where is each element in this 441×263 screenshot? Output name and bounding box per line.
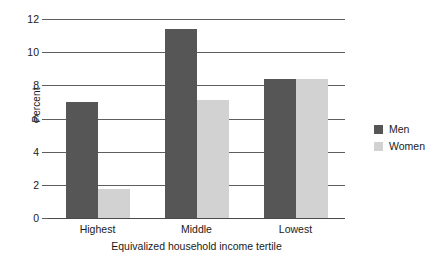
bar-men-highest [66, 102, 98, 218]
bar-women-lowest [296, 79, 328, 218]
x-axis-title: Equivalized household income tertile [48, 240, 345, 252]
bar-men-lowest [264, 79, 296, 218]
y-axis-tick-label: 10 [27, 47, 39, 58]
y-axis-tick-mark [42, 152, 48, 153]
y-axis-tick-mark [42, 218, 48, 219]
legend-swatch-icon [374, 125, 383, 134]
x-axis-line [48, 218, 345, 219]
bar-women-highest [98, 189, 130, 218]
legend-swatch-icon [374, 142, 383, 151]
gridline [48, 52, 345, 53]
y-axis-tick-label: 6 [33, 113, 39, 124]
bar-men-middle [165, 29, 197, 218]
x-axis-category-label: Middle [181, 223, 212, 235]
x-axis-category-label: Highest [80, 223, 116, 235]
y-axis-tick-mark [42, 85, 48, 86]
y-axis-tick-label: 4 [33, 146, 39, 157]
legend-item-women[interactable]: Women [374, 138, 425, 155]
legend-label: Women [389, 141, 425, 152]
bar-women-middle [197, 100, 229, 218]
y-axis-tick-mark [42, 185, 48, 186]
plot-area: 024681012 [48, 19, 345, 218]
y-axis-tick-label: 12 [27, 14, 39, 25]
legend-item-men[interactable]: Men [374, 121, 425, 138]
y-axis-tick-label: 8 [33, 80, 39, 91]
x-axis-category-label: Lowest [279, 223, 312, 235]
y-axis-tick-mark [42, 52, 48, 53]
chart-legend: MenWomen [374, 121, 425, 155]
y-axis-tick-mark [42, 119, 48, 120]
y-axis-tick-label: 2 [33, 180, 39, 191]
y-axis-tick-label: 0 [33, 213, 39, 224]
gridline [48, 19, 345, 20]
bar-chart: Percent 024681012 MenWomen HighestMiddle… [0, 0, 441, 263]
y-axis-tick-mark [42, 19, 48, 20]
legend-label: Men [389, 124, 409, 135]
